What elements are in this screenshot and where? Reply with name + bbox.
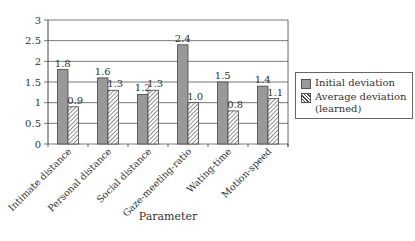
bar-learned (68, 107, 79, 144)
bar-value-label: 1.1 (267, 87, 283, 98)
y-tick-label: 0 (35, 139, 41, 150)
bar-value-label: 1.4 (255, 74, 271, 85)
legend-label: Initial deviation (315, 77, 395, 89)
bar-initial (138, 94, 149, 144)
bar-learned (108, 90, 119, 144)
x-axis-title: Parameter (139, 210, 198, 223)
y-tick-label: 1.5 (25, 77, 41, 88)
bar-value-label: 0.8 (227, 99, 243, 110)
bar-value-label: 1.8 (55, 58, 71, 69)
bar-value-label: 0.9 (67, 95, 83, 106)
y-tick-label: 2.5 (25, 35, 41, 46)
x-axis-category-labels: Intimate distancePersonal distanceSocial… (6, 145, 273, 218)
x-category-label: Gaze-meeting-ratio (120, 145, 193, 218)
bar-value-label: 1.3 (147, 78, 163, 89)
legend-item-learned: Average deviation (learned) (301, 91, 406, 115)
bar-initial (218, 82, 229, 144)
legend-item-initial: Initial deviation (301, 77, 395, 89)
bar-learned (148, 90, 159, 144)
bar-initial (58, 70, 69, 144)
bar-value-label: 2.4 (175, 33, 191, 44)
y-axis-ticks: 00.511.522.53 (25, 15, 41, 150)
y-tick-label: 0.5 (25, 118, 41, 129)
legend: Initial deviation Average deviation (lea… (295, 72, 413, 119)
bar-learned (268, 99, 279, 144)
bar-learned (228, 111, 239, 144)
legend-label: Average deviation (315, 91, 406, 103)
gridlines (44, 20, 288, 147)
bar-value-label: 1.0 (187, 91, 203, 102)
bar-value-label: 1.6 (95, 66, 111, 77)
legend-label-wrap: Average deviation (learned) (315, 91, 406, 115)
bars (58, 45, 279, 144)
bar-value-label: 1.3 (107, 78, 123, 89)
y-tick-label: 2 (35, 56, 41, 67)
legend-label-line2: (learned) (315, 103, 406, 115)
bar-learned (188, 103, 199, 144)
bar-value-labels: 1.80.91.61.31.21.32.41.01.50.81.41.1 (55, 33, 283, 110)
hatched-swatch-icon (301, 93, 311, 103)
solid-swatch-icon (301, 79, 311, 89)
y-tick-label: 1 (35, 97, 41, 108)
bar-value-label: 1.5 (215, 70, 231, 81)
bar-chart: 00.511.522.53 1.80.91.61.31.21.32.41.01.… (0, 0, 415, 241)
y-tick-label: 3 (35, 15, 41, 26)
